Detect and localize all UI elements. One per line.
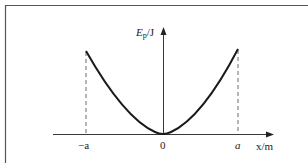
diagram-canvas: Ep/J −a 0 a x/m: [0, 0, 308, 163]
y-axis-label: Ep/J: [135, 26, 155, 40]
potential-energy-diagram: Ep/J −a 0 a x/m: [0, 0, 308, 163]
potential-curve: [86, 49, 238, 134]
x-axis-label: x/m: [256, 140, 274, 152]
y-axis-arrow-icon: [161, 27, 167, 35]
left-mark-label: −a: [78, 139, 89, 151]
x-axis-arrow-icon: [266, 132, 274, 138]
right-mark-label: a: [235, 139, 241, 151]
origin-label: 0: [160, 139, 166, 151]
